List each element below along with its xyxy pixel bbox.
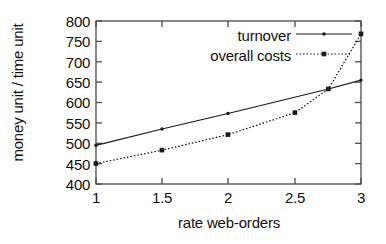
data-point xyxy=(359,78,362,81)
data-point xyxy=(160,148,165,153)
y-tick-marks xyxy=(96,21,361,184)
legend-sample-overall-costs-marker xyxy=(322,52,327,57)
legend-sample-turnover-marker xyxy=(322,32,325,35)
x-tick-marks xyxy=(96,21,361,184)
data-point xyxy=(326,87,331,92)
data-point xyxy=(226,112,229,115)
plot-canvas xyxy=(0,0,386,244)
data-point xyxy=(226,132,231,137)
plot-border xyxy=(96,21,361,184)
chart-figure: money unit / time unit 800 750 700 650 6… xyxy=(0,0,386,244)
data-point xyxy=(160,127,163,130)
data-point xyxy=(359,32,364,37)
data-point xyxy=(293,110,298,115)
data-point xyxy=(94,161,99,166)
legend-samples xyxy=(296,32,352,56)
data-point xyxy=(94,144,97,147)
plot-frame xyxy=(96,21,361,184)
